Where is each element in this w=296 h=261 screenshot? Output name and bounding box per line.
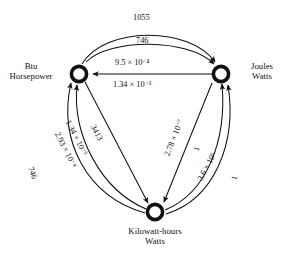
node-joules-line1: Joules: [234, 61, 290, 71]
node-kwh-line1: Kilowatt-hours: [105, 226, 205, 236]
edge-kwh-to-btu-inner: [76, 85, 146, 209]
node-kwh-line2: Watts: [105, 236, 205, 246]
node-joules-watts-ring: [213, 66, 228, 81]
node-kilowatt-hours-watts-ring: [147, 204, 162, 219]
node-btu-line2: Horsepower: [2, 71, 60, 81]
node-btu-line1: Btu: [2, 61, 60, 71]
unit-conversion-diagram: Btu Horsepower Joules Watts Kilowatt-hou…: [0, 0, 296, 261]
edge-label-horsepower-to-watts-inner: 746: [136, 36, 148, 46]
edge-label-btu-to-joules-outer: 1055: [133, 13, 150, 23]
edge-horsepower-to-watts-inner: [86, 44, 214, 64]
node-btu-horsepower-ring: [71, 66, 86, 81]
node-label-btu-horsepower: Btu Horsepower: [2, 61, 60, 82]
node-joules-line2: Watts: [234, 71, 290, 81]
edge-btu-to-kwh-straight: [85, 82, 148, 203]
node-label-joules-watts: Joules Watts: [234, 61, 290, 82]
node-label-kilowatt-hours-watts: Kilowatt-hours Watts: [105, 226, 205, 247]
edge-label-watts-to-horsepower-lower: 1.34 × 10⁻³: [113, 80, 151, 90]
edge-label-joules-to-btu-upper: 9.5 × 10⁻⁴: [115, 58, 149, 68]
